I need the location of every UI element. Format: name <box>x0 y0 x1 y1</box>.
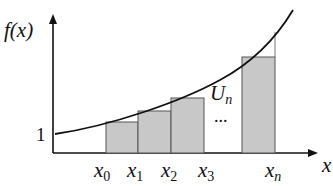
bar-2 <box>138 111 171 153</box>
partition-labels: x0 x1 x2 x3 xn <box>93 158 281 184</box>
bar-1 <box>106 122 138 153</box>
riemann-sum-diagram: f(x) x 1 Un ... x0 x1 x2 x3 xn <box>0 0 333 186</box>
lower-rectangles <box>106 57 275 153</box>
x-axis-arrow-icon <box>308 149 318 157</box>
label-x1: x1 <box>126 158 143 184</box>
label-x2: x2 <box>160 158 177 184</box>
y-axis-arrow-icon <box>49 14 57 24</box>
x-axis-label: x <box>321 153 332 177</box>
region-label: Un <box>210 81 232 107</box>
y-axis-label: f(x) <box>4 18 33 42</box>
bar-n <box>242 57 275 153</box>
label-x3: x3 <box>197 158 214 184</box>
ellipsis: ... <box>214 106 228 126</box>
bar-3 <box>171 98 204 153</box>
y-tick-label: 1 <box>36 124 46 145</box>
label-x0: x0 <box>93 158 110 184</box>
label-xn: xn <box>264 158 281 184</box>
